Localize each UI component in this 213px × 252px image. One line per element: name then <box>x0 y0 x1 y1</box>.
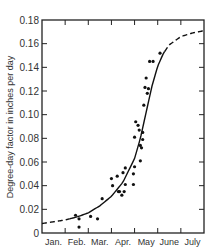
x-tick-label: Apr. <box>115 237 131 247</box>
data-point <box>146 92 149 95</box>
data-point <box>134 120 137 123</box>
x-tick-label: Jan. <box>45 237 62 247</box>
data-point <box>147 87 150 90</box>
chart-svg: 00.020.040.060.080.100.120.140.160.18 Ja… <box>0 0 213 252</box>
data-point <box>121 171 124 174</box>
data-point <box>77 225 80 228</box>
y-tick-label: 0.02 <box>20 204 40 215</box>
x-tick-label: Mar. <box>91 237 109 247</box>
data-point <box>133 165 136 168</box>
data-point <box>151 60 154 63</box>
data-point <box>124 166 127 169</box>
data-point <box>132 183 135 186</box>
data-point <box>136 124 139 127</box>
y-tick-label: 0.06 <box>20 157 40 168</box>
data-point <box>123 190 126 193</box>
data-point <box>74 214 77 217</box>
data-point <box>89 215 92 218</box>
data-point <box>143 86 146 89</box>
y-tick-label: 0.18 <box>20 15 40 26</box>
data-point <box>133 136 136 139</box>
data-point <box>145 76 148 79</box>
x-tick-label: July <box>184 237 201 247</box>
data-point <box>120 194 123 197</box>
data-point <box>96 217 99 220</box>
data-point <box>138 128 141 131</box>
data-point <box>111 184 114 187</box>
plot-border <box>42 20 204 233</box>
data-point <box>116 175 119 178</box>
data-point <box>158 52 161 55</box>
data-point <box>141 131 144 134</box>
curve-dashed <box>165 31 204 52</box>
data-point <box>124 183 127 186</box>
data-point <box>118 190 121 193</box>
x-tick-label: June <box>160 237 180 247</box>
y-tick-label: 0.12 <box>20 86 40 97</box>
y-tick-label: 0.14 <box>20 62 40 73</box>
data-point <box>132 172 135 175</box>
y-tick-label: 0.08 <box>20 133 40 144</box>
data-point <box>139 159 142 162</box>
y-axis-label: Degree-day factor in inches per day <box>5 55 15 198</box>
data-points <box>74 52 162 229</box>
x-tick-label: Feb. <box>68 237 86 247</box>
curve-solid <box>70 51 165 218</box>
degree-day-chart: 00.020.040.060.080.100.120.140.160.18 Ja… <box>0 0 213 252</box>
data-point <box>142 104 145 107</box>
x-tick-label: May <box>138 237 156 247</box>
y-tick-label: 0.16 <box>20 38 40 49</box>
data-point <box>77 217 80 220</box>
y-tick-label: 0.04 <box>20 180 40 191</box>
plot-frame <box>42 20 204 233</box>
x-axis: Jan.Feb.Mar.Apr.MayJuneJuly <box>45 20 201 247</box>
y-axis: 00.020.040.060.080.100.120.140.160.18 <box>20 15 204 239</box>
y-tick-label: 0 <box>33 228 39 239</box>
data-point <box>148 60 151 63</box>
curve-dashed <box>42 219 70 224</box>
data-point <box>141 138 144 141</box>
y-tick-label: 0.10 <box>20 109 40 120</box>
data-point <box>110 177 113 180</box>
data-point <box>140 146 143 149</box>
data-point <box>101 197 104 200</box>
